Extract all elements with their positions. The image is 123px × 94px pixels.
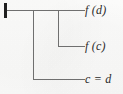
branch-label-fc: f (c) [85,40,106,52]
branch-label-fd: f (d) [85,4,106,16]
branch-label-cd: c = d [85,73,111,85]
tree-diagram-figure: f (d) f (c) c = d [0,0,123,94]
